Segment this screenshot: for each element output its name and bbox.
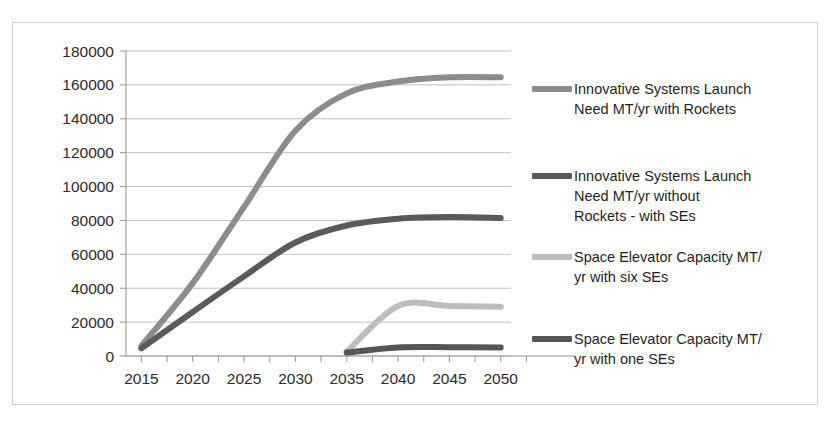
legend-entry[interactable]: Space Elevator Capacity MT/ yr with one … — [532, 329, 762, 369]
y-axis-tick-label: 0 — [105, 348, 114, 365]
y-axis-tick-label: 120000 — [62, 144, 114, 161]
legend-label: Innovative Systems Launch Need MT/yr wit… — [574, 166, 751, 226]
legend-color-swatch — [532, 254, 572, 260]
legend-entry[interactable]: Innovative Systems Launch Need MT/yr wit… — [532, 166, 751, 226]
y-axis-tick-label: 40000 — [71, 280, 114, 297]
x-axis-tick-label: 2030 — [278, 370, 313, 387]
x-axis-tick-label: 2020 — [175, 370, 210, 387]
legend-label: Space Elevator Capacity MT/ yr with six … — [574, 247, 762, 287]
x-axis-tick-label: 2050 — [483, 370, 518, 387]
legend-color-swatch — [532, 86, 572, 92]
y-axis-tick-label: 20000 — [71, 314, 114, 331]
y-axis-tick-label: 160000 — [62, 76, 114, 93]
legend-color-swatch — [532, 336, 572, 342]
legend-label: Innovative Systems Launch Need MT/yr wit… — [574, 79, 751, 119]
x-axis-tick-label: 2045 — [432, 370, 466, 387]
series-line-4 — [347, 347, 501, 353]
y-axis-tick-label: 80000 — [71, 212, 114, 229]
y-axis-tick-label: 140000 — [62, 110, 114, 127]
x-axis-tick-label: 2015 — [124, 370, 158, 387]
x-axis-tick-label: 2035 — [329, 370, 363, 387]
legend-color-swatch — [532, 173, 572, 179]
legend-entry[interactable]: Space Elevator Capacity MT/ yr with six … — [532, 247, 762, 287]
y-axis-tick-label: 60000 — [71, 246, 114, 263]
chart-frame: 0200004000060000800001000001200001400001… — [12, 22, 818, 405]
y-axis-tick-label: 180000 — [62, 43, 114, 60]
y-axis-tick-label: 100000 — [62, 178, 114, 195]
legend-entry[interactable]: Innovative Systems Launch Need MT/yr wit… — [532, 79, 751, 119]
x-axis-tick-label: 2025 — [227, 370, 261, 387]
legend-label: Space Elevator Capacity MT/ yr with one … — [574, 329, 762, 369]
x-axis-tick-label: 2040 — [381, 370, 416, 387]
